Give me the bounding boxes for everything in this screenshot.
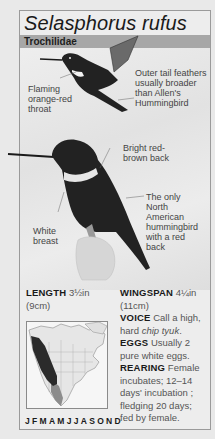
voice-stat: VOICE Call a high, bbox=[120, 312, 212, 325]
north-america-map-icon bbox=[27, 322, 108, 409]
rearing-stat: REARING Female bbox=[120, 362, 212, 375]
label-tail: Outer tail feathers usually broader than… bbox=[135, 68, 207, 108]
wingspan-stat: WINGSPAN 4¼in bbox=[120, 287, 212, 300]
range-map bbox=[26, 321, 108, 409]
species-card: Selasphorus rufus Trochilidae Flaming or… bbox=[19, 10, 211, 430]
details-column: WINGSPAN 4¼in (11cm) VOICE Call a high, … bbox=[120, 287, 212, 425]
species-name: Selasphorus rufus bbox=[24, 12, 187, 35]
family-bar: Trochilidae bbox=[20, 35, 210, 48]
label-throat: Flaming orange-red throat bbox=[28, 84, 72, 114]
months-strip: JFMAMJJASOND bbox=[25, 416, 111, 426]
label-unique: The only North American hummingbird with… bbox=[146, 192, 198, 252]
label-back: Bright red- brown back bbox=[123, 143, 169, 163]
eggs-stat: EGGS Usually 2 bbox=[120, 337, 212, 350]
label-breast: White breast bbox=[33, 226, 58, 246]
family-name: Trochilidae bbox=[24, 35, 77, 48]
length-stat: LENGTH 3½in (9cm) bbox=[26, 287, 116, 312]
